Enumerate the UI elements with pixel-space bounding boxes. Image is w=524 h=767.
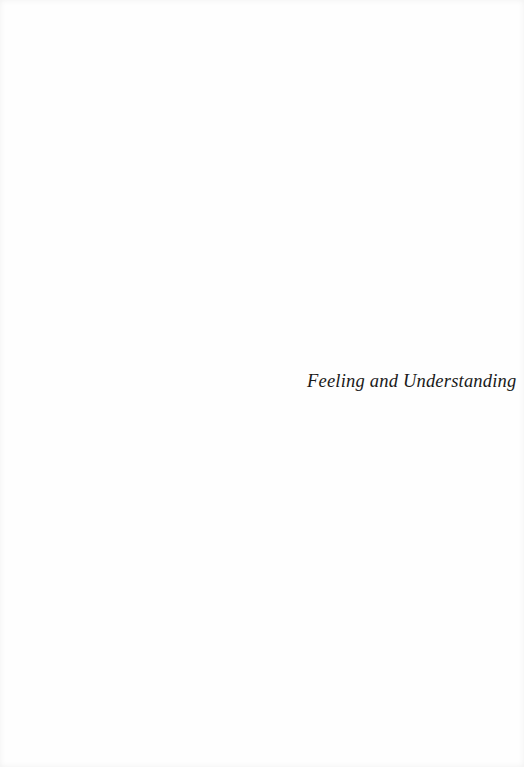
- book-page: Feeling and Understanding: [0, 0, 524, 767]
- half-title: Feeling and Understanding: [307, 372, 517, 391]
